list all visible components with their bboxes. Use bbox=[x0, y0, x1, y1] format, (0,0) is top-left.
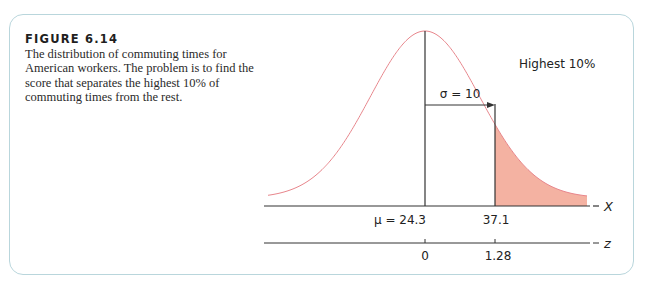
tail-label: Highest 10% bbox=[519, 57, 595, 71]
arrowhead-icon bbox=[487, 102, 495, 108]
normal-curve bbox=[268, 31, 587, 196]
sigma-label: σ = 10 bbox=[440, 87, 481, 101]
normal-distribution-chart: σ = 10 Highest 10% X μ = 24.3 37.1 z 0 1… bbox=[0, 0, 649, 298]
z-axis-label: z bbox=[603, 236, 612, 251]
mu-label: μ = 24.3 bbox=[374, 213, 426, 227]
cutoff-label: 37.1 bbox=[483, 213, 510, 227]
z-cutoff-label: 1.28 bbox=[485, 249, 512, 263]
z-zero-label: 0 bbox=[421, 249, 429, 263]
x-axis-label: X bbox=[603, 199, 614, 214]
